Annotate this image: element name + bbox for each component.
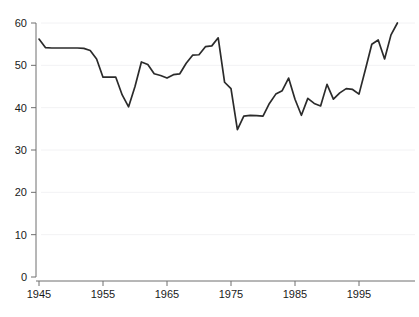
y-tick-label-0: 0 — [21, 271, 27, 283]
x-tick-label-1965: 1965 — [155, 288, 179, 300]
y-tick-label-60: 60 — [15, 17, 27, 29]
line-chart: 0102030405060 194519551965197519851995 — [0, 0, 419, 317]
y-tick-label-30: 30 — [15, 144, 27, 156]
x-axis: 194519551965197519851995 — [27, 281, 415, 300]
y-axis: 0102030405060 — [15, 17, 36, 283]
x-tick-label-1955: 1955 — [91, 288, 115, 300]
y-tick-label-20: 20 — [15, 186, 27, 198]
x-tick-label-1985: 1985 — [283, 288, 307, 300]
y-tick-label-10: 10 — [15, 229, 27, 241]
grid-lines — [41, 23, 415, 235]
y-tick-label-40: 40 — [15, 102, 27, 114]
chart-canvas: 0102030405060 194519551965197519851995 — [0, 0, 419, 317]
x-tick-label-1945: 1945 — [27, 288, 51, 300]
y-tick-label-50: 50 — [15, 59, 27, 71]
data-series-line — [39, 23, 397, 130]
x-tick-label-1995: 1995 — [347, 288, 371, 300]
x-tick-label-1975: 1975 — [219, 288, 243, 300]
